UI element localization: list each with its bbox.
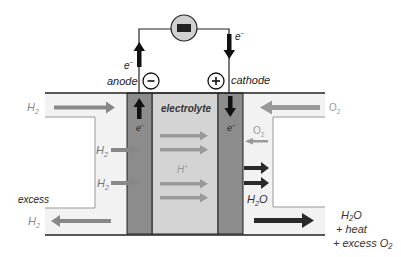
outlet-excess-o2-label: + excess O₂ [333, 238, 393, 249]
outlet-water-label: H₂O [341, 210, 362, 221]
excess-label: excess [18, 195, 49, 205]
anode-label: anode [107, 76, 138, 87]
electron-up-arrow-icon [134, 42, 146, 67]
o2-inner-label: O2 [253, 126, 264, 139]
h2-inner-label-2: H2 [97, 178, 109, 192]
cathode-electron-label: e− [227, 123, 235, 133]
cathode-label: cathode [231, 75, 270, 86]
h2-inner-label-1: H2 [96, 145, 108, 159]
electrolyte-label: electrolyte [161, 104, 211, 114]
cathode-positive-sign-icon [208, 73, 224, 89]
load-resistor-icon [171, 15, 197, 41]
h2-excess-outlet-label: H2 [28, 216, 40, 230]
water-label: H2O [247, 194, 268, 208]
h2-inlet-label: H2 [27, 102, 39, 116]
electron-label-left: e− [124, 60, 133, 71]
cathode-channel-inner-white [273, 117, 325, 207]
anode-negative-sign-icon [143, 73, 159, 89]
electron-down-arrow-icon [224, 34, 236, 59]
electron-label-right: e− [235, 31, 244, 42]
anode-channel-inner-white [45, 117, 95, 208]
anode-electron-label: e− [136, 123, 144, 133]
o2-inlet-label: O2 [329, 103, 340, 116]
proton-label: H+ [177, 164, 188, 175]
outlet-heat-label: + heat [336, 224, 367, 235]
